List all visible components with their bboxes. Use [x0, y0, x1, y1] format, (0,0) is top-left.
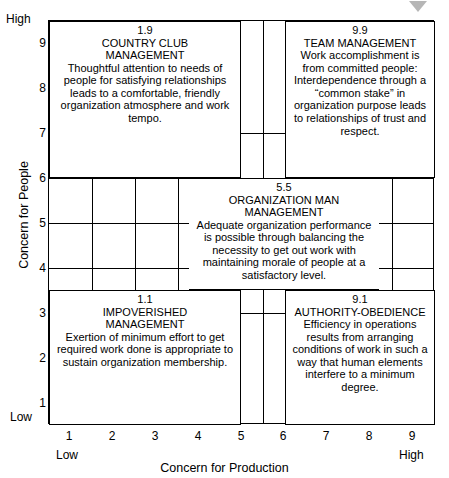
- managerial-grid-diagram: 1.9 COUNTRY CLUB MANAGEMENT Thoughtful a…: [0, 0, 449, 478]
- quadrant-title-line2: MANAGEMENT: [245, 206, 324, 219]
- x-tick-label-8: 8: [357, 430, 381, 443]
- grid-plot-area: 1.9 COUNTRY CLUB MANAGEMENT Thoughtful a…: [48, 20, 434, 424]
- x-tick-label-1: 1: [57, 430, 81, 443]
- quadrant-description: Adequate organization performance is pos…: [192, 219, 376, 282]
- quadrant-team-management[interactable]: 9.9 TEAM MANAGEMENT Work accomplishment …: [285, 21, 435, 178]
- y-axis-title: Concern for People: [17, 135, 31, 295]
- quadrant-impoverished[interactable]: 1.1 IMPOVERISHED MANAGEMENT Exertion of …: [49, 290, 241, 425]
- quadrant-title-line1: COUNTRY CLUB: [102, 37, 188, 50]
- quadrant-description: Work accomplishment is from committed pe…: [289, 49, 431, 137]
- quadrant-code: 1.1: [137, 293, 152, 306]
- quadrant-code: 9.9: [352, 24, 367, 37]
- x-axis-tick-labels: 1 2 3 4 5 6 7 8 9: [48, 430, 434, 446]
- quadrant-title-line2: MANAGEMENT: [106, 49, 185, 62]
- y-tick-label-1: 1: [24, 397, 46, 410]
- quadrant-organization-man[interactable]: 5.5 ORGANIZATION MAN MANAGEMENT Adequate…: [189, 178, 379, 290]
- x-tick-label-7: 7: [314, 430, 338, 443]
- quadrant-code: 9.1: [352, 293, 367, 306]
- quadrant-description: Exertion of minimum effort to get requir…: [53, 331, 237, 369]
- quadrant-title-line1: IMPOVERISHED: [103, 306, 187, 319]
- y-tick-label-3: 3: [24, 307, 46, 320]
- x-axis-high-label: High: [399, 449, 424, 462]
- x-tick-label-4: 4: [186, 430, 210, 443]
- x-tick-label-2: 2: [100, 430, 124, 443]
- x-axis-low-label: Low: [56, 449, 78, 462]
- quadrant-title-line1: ORGANIZATION MAN: [229, 194, 339, 207]
- y-tick-label-8: 8: [24, 82, 46, 95]
- quadrant-title-line1: AUTHORITY-OBEDIENCE: [294, 306, 425, 319]
- quadrant-code: 5.5: [276, 181, 291, 194]
- x-tick-label-5: 5: [229, 430, 253, 443]
- chevron-down-icon: [409, 1, 427, 12]
- y-axis-high-label: High: [6, 13, 31, 26]
- x-tick-label-3: 3: [143, 430, 167, 443]
- y-tick-label-2: 2: [24, 352, 46, 365]
- quadrant-code: 1.9: [137, 24, 152, 37]
- quadrant-description: Efficiency in operations results from ar…: [289, 318, 431, 394]
- x-tick-label-6: 6: [271, 430, 295, 443]
- quadrant-description: Thoughtful attention to needs of people …: [53, 62, 237, 125]
- y-tick-label-9: 9: [24, 37, 46, 50]
- quadrant-title-line2: MANAGEMENT: [106, 318, 185, 331]
- x-axis-title: Concern for Production: [0, 462, 449, 475]
- y-axis-low-label: Low: [10, 411, 32, 424]
- quadrant-authority-obedience[interactable]: 9.1 AUTHORITY-OBEDIENCE Efficiency in op…: [285, 290, 435, 425]
- quadrant-title-line1: TEAM MANAGEMENT: [304, 37, 416, 50]
- quadrant-country-club[interactable]: 1.9 COUNTRY CLUB MANAGEMENT Thoughtful a…: [49, 21, 241, 178]
- x-tick-label-9: 9: [400, 430, 424, 443]
